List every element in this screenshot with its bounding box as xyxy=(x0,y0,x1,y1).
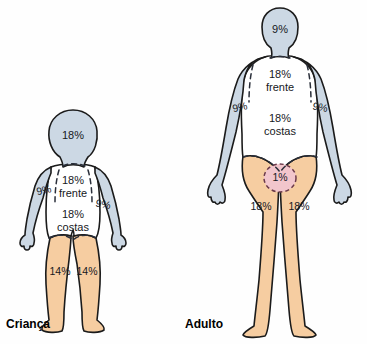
child-leg-left-percent-label: 14% xyxy=(76,265,97,277)
child-torso-back-text-label: costas xyxy=(57,221,89,233)
adult-torso-front-percent-label: 18% xyxy=(269,68,291,80)
adult-genital-percent-label: 1% xyxy=(272,171,287,183)
adult-torso-back-text-label: costas xyxy=(264,125,296,137)
child-leg-right-percent-label: 14% xyxy=(49,265,70,277)
rule-of-nines-diagram: 18% 18% frente 18% costas 9% 9% 14% 14% … xyxy=(0,0,367,344)
adult-caption: Adulto xyxy=(185,317,223,331)
body-surface-area-illustration: 18% 18% frente 18% costas 9% 9% 14% 14% … xyxy=(0,0,367,344)
child-head-percent-label: 18% xyxy=(62,129,84,141)
adult-torso-front-text-label: frente xyxy=(266,81,294,93)
adult-torso-back-percent-label: 18% xyxy=(269,112,291,124)
adult-leg-left-percent-label: 18% xyxy=(288,200,309,212)
child-caption: Criança xyxy=(6,317,50,331)
child-figure: 18% 18% frente 18% costas 9% 9% 14% 14% … xyxy=(6,110,126,332)
child-torso-front-text-label: frente xyxy=(59,187,87,199)
adult-leg-right-percent-label: 18% xyxy=(250,200,271,212)
child-leg-left-shape xyxy=(73,235,104,333)
child-torso-back-percent-label: 18% xyxy=(62,208,84,220)
adult-head-percent-label: 9% xyxy=(272,23,288,35)
child-torso-front-percent-label: 18% xyxy=(62,174,84,186)
adult-figure: 9% 18% frente 18% costas 9% 9% 1% 18% 18… xyxy=(185,8,351,337)
